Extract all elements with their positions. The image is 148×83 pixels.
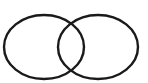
venn-diagram bbox=[0, 0, 148, 83]
venn-svg bbox=[0, 0, 148, 83]
left-set-ellipse bbox=[4, 15, 84, 79]
right-set-ellipse bbox=[58, 15, 138, 79]
